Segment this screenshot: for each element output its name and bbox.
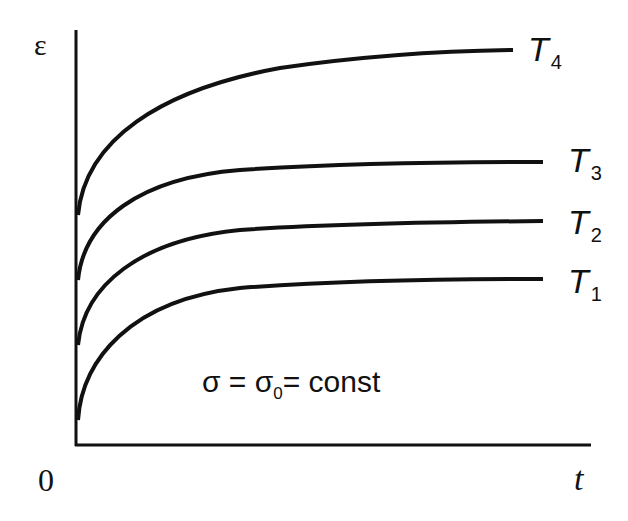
y-axis-label: ε xyxy=(34,28,47,62)
legend-label-t1: T1 xyxy=(568,262,602,301)
x-axis-label: t xyxy=(574,460,583,498)
legend-label-t2: T2 xyxy=(568,203,602,242)
stress-annotation: σ = σ0= const xyxy=(202,365,380,399)
legend-label-t4: T4 xyxy=(528,30,562,69)
origin-label: 0 xyxy=(38,462,54,499)
legend-label-t3: T3 xyxy=(568,141,602,180)
creep-chart xyxy=(0,0,628,521)
curve-t4 xyxy=(78,50,513,215)
